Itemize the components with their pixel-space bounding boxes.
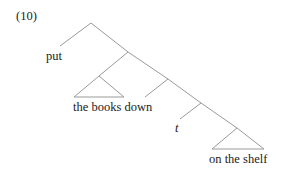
branch-node3-left	[145, 79, 168, 97]
branch-node2-to-node3	[128, 52, 168, 79]
leaf-pp: on the shelf	[209, 153, 267, 166]
triangle-pp-right	[237, 128, 264, 149]
tree-branches	[0, 0, 284, 173]
leaf-object: the books down	[73, 101, 152, 114]
branch-node2-to-object	[99, 52, 128, 76]
triangle-pp-left	[212, 128, 237, 149]
leaf-verb: put	[46, 50, 62, 63]
branch-node4-to-pp	[201, 103, 237, 128]
leaf-trace: t	[175, 122, 178, 135]
branch-root-to-verb	[60, 23, 91, 46]
branch-node4-to-trace	[180, 103, 201, 119]
branch-node3-to-node4	[168, 79, 201, 103]
triangle-object-right	[99, 76, 124, 97]
branch-root-to-node2	[91, 23, 128, 52]
triangle-object-left	[74, 76, 99, 97]
